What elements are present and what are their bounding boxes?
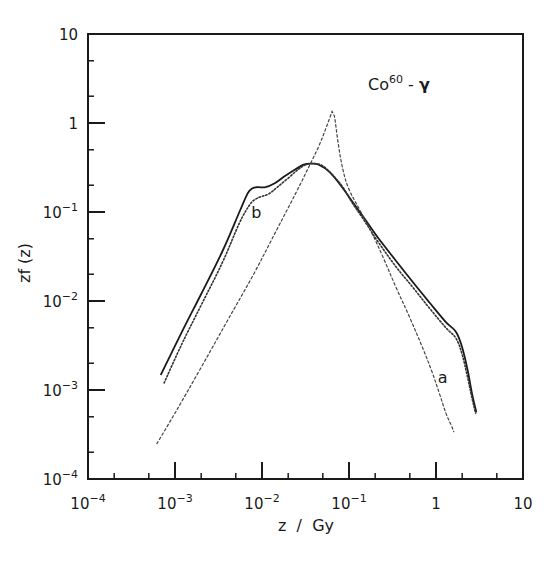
y-tick-label: 10−3	[43, 379, 78, 400]
series-solid	[161, 164, 476, 412]
y-axis-title: zf (z)	[15, 243, 34, 283]
x-tick-label: 10−3	[157, 492, 192, 513]
y-tick-label: 1	[68, 115, 78, 133]
y-tick-label: 10	[59, 26, 78, 44]
dose-distribution-chart: 10−410−310−210−1110 10110−110−210−310−4 …	[0, 0, 558, 562]
curve-label-b: b	[251, 203, 261, 222]
series-layer	[157, 111, 476, 443]
chart-title: Co60 - γ	[368, 73, 430, 94]
x-tick-label: 10−1	[331, 492, 366, 513]
x-tick-label: 1	[431, 495, 441, 513]
y-tick-label: 10−4	[43, 468, 78, 489]
x-tick-label: 10−2	[244, 492, 279, 513]
series-dotted	[164, 164, 476, 414]
y-axis-ticks: 10110−110−210−310−4	[43, 26, 105, 489]
y-tick-label: 10−1	[43, 201, 78, 222]
x-axis-title: z / Gy	[278, 516, 334, 535]
x-axis-ticks: 10−410−310−210−1110	[70, 462, 532, 513]
plot-frame	[88, 34, 523, 479]
x-tick-label: 10	[513, 495, 532, 513]
curve-label-a: a	[438, 368, 448, 387]
x-tick-label: 10−4	[70, 492, 105, 513]
plot-border	[88, 34, 523, 479]
y-tick-label: 10−2	[43, 290, 78, 311]
